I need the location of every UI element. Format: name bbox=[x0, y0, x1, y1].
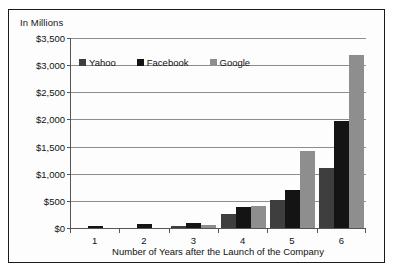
legend-label: Yahoo bbox=[89, 57, 116, 68]
chart-legend: YahooFacebookGoogle bbox=[79, 57, 250, 68]
bar bbox=[201, 225, 216, 228]
x-tick-text: 1 bbox=[92, 235, 97, 246]
bar bbox=[270, 200, 285, 228]
x-tick-label: 3 bbox=[169, 229, 218, 247]
x-tick-mark bbox=[218, 229, 219, 233]
x-tick-text: 3 bbox=[191, 235, 196, 246]
bar bbox=[251, 206, 266, 228]
chart-figure: In Millions $3,500$3,000$2,500$2,000$1,5… bbox=[8, 9, 385, 263]
x-tick-label: 5 bbox=[267, 229, 316, 247]
x-tick-mark bbox=[169, 229, 170, 233]
legend-label: Google bbox=[220, 57, 251, 68]
x-tick-text: 6 bbox=[339, 235, 344, 246]
y-tick-label: $3,500 bbox=[9, 33, 65, 44]
bar-group bbox=[317, 38, 366, 228]
x-tick-label: 6 bbox=[317, 229, 366, 247]
x-tick-text: 5 bbox=[289, 235, 294, 246]
legend-item: Google bbox=[210, 57, 251, 68]
y-tick-label: $2,500 bbox=[9, 87, 65, 98]
legend-swatch-icon bbox=[210, 59, 217, 66]
bar bbox=[221, 214, 236, 228]
bar bbox=[349, 55, 364, 228]
bar bbox=[319, 168, 334, 228]
bar bbox=[171, 226, 186, 228]
x-tick-mark bbox=[317, 229, 318, 233]
bar bbox=[137, 224, 152, 228]
x-tick-label: 1 bbox=[70, 229, 119, 247]
y-tick-label: $500 bbox=[9, 195, 65, 206]
y-tick-label: $0 bbox=[9, 223, 65, 234]
bar bbox=[285, 190, 300, 228]
x-axis-title: Number of Years after the Launch of the … bbox=[70, 246, 366, 257]
x-tick-mark bbox=[119, 229, 120, 233]
x-tick-text: 2 bbox=[141, 235, 146, 246]
x-axis-tick-labels: 123456 bbox=[70, 229, 366, 247]
x-tick-label: 4 bbox=[218, 229, 267, 247]
legend-item: Facebook bbox=[137, 57, 189, 68]
legend-item: Yahoo bbox=[79, 57, 116, 68]
bar bbox=[334, 121, 349, 228]
y-tick-label: $3,000 bbox=[9, 60, 65, 71]
y-tick-label: $1,000 bbox=[9, 168, 65, 179]
bar bbox=[186, 223, 201, 228]
bar bbox=[236, 207, 251, 228]
x-tick-mark bbox=[267, 229, 268, 233]
x-tick-mark bbox=[365, 229, 366, 233]
bar-group bbox=[268, 38, 317, 228]
y-axis-unit-label: In Millions bbox=[20, 17, 63, 28]
legend-swatch-icon bbox=[79, 59, 86, 66]
y-tick-label: $2,000 bbox=[9, 114, 65, 125]
legend-swatch-icon bbox=[137, 59, 144, 66]
x-tick-mark bbox=[70, 229, 71, 233]
x-tick-label: 2 bbox=[119, 229, 168, 247]
bar bbox=[88, 226, 103, 228]
y-tick-label: $1,500 bbox=[9, 141, 65, 152]
legend-label: Facebook bbox=[147, 57, 189, 68]
bar bbox=[300, 151, 315, 228]
x-tick-text: 4 bbox=[240, 235, 245, 246]
